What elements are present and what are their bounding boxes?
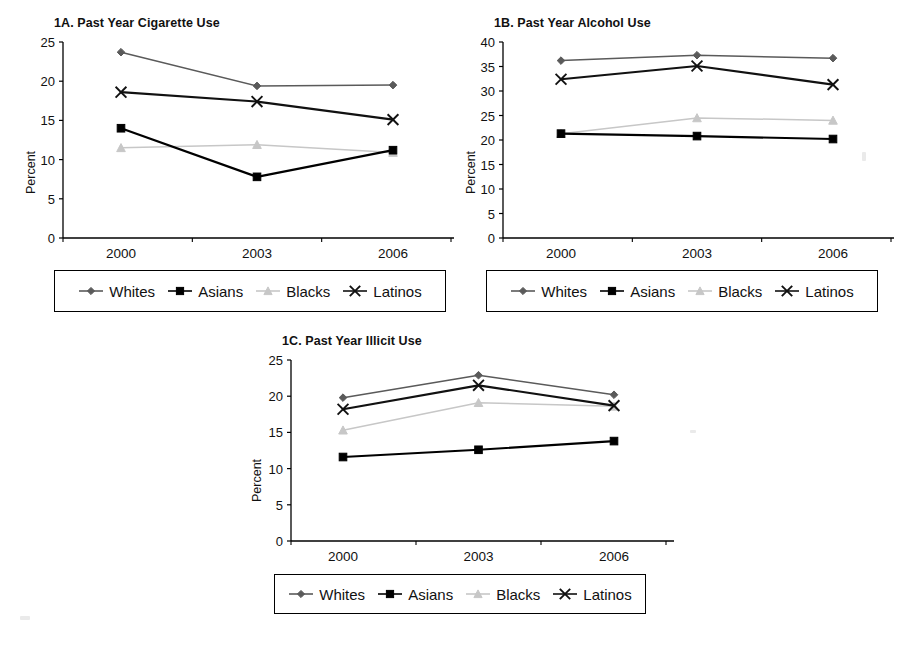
line-chart-1c: [236, 352, 676, 567]
scan-speck: [862, 152, 866, 161]
x-tick-label: 2003: [682, 246, 712, 261]
legend-item-whites[interactable]: Whites: [288, 586, 365, 603]
plot-area-1c: Percent 0510152025 200020032006: [236, 352, 676, 567]
legend-item-whites[interactable]: Whites: [510, 283, 587, 300]
x-tick-label: 2000: [106, 246, 136, 261]
y-tick-label: 20: [15, 74, 55, 89]
y-tick-label: 25: [455, 108, 495, 123]
legend-marker-diamond-icon: [510, 284, 536, 298]
line-chart-1b: [456, 34, 896, 264]
chart-panel-cigarette: 1A. Past Year Cigarette Use Percent 0510…: [16, 16, 456, 326]
y-tick-label: 15: [455, 157, 495, 172]
y-tick-label: 40: [455, 35, 495, 50]
y-tick-label: 30: [455, 84, 495, 99]
plot-area-1a: Percent 0510152025 200020032006: [16, 34, 456, 264]
legend-marker-square-icon: [377, 587, 403, 601]
chart-title-1c: 1C. Past Year Illicit Use: [282, 334, 676, 348]
legend-label: Asians: [408, 586, 453, 603]
chart-title-1a: 1A. Past Year Cigarette Use: [54, 16, 456, 30]
x-tick-label: 2006: [599, 549, 629, 564]
series-whites: [557, 51, 837, 64]
y-tick-label: 35: [455, 59, 495, 74]
series-blacks: [339, 398, 619, 434]
series-asians: [339, 437, 618, 461]
legend-marker-cross-icon: [774, 284, 800, 298]
legend-item-latinos[interactable]: Latinos: [552, 586, 631, 603]
y-tick-label: 10: [455, 182, 495, 197]
legend-marker-triangle-icon: [255, 284, 281, 298]
legend-marker-diamond-icon: [78, 284, 104, 298]
legend-item-asians[interactable]: Asians: [167, 283, 243, 300]
legend-label: Asians: [630, 283, 675, 300]
legend-label: Whites: [319, 586, 365, 603]
legend-label: Blacks: [718, 283, 762, 300]
series-asians: [117, 124, 397, 180]
legend-item-blacks[interactable]: Blacks: [465, 586, 540, 603]
y-tick-label: 5: [455, 206, 495, 221]
legend-marker-cross-icon: [552, 587, 578, 601]
legend-marker-triangle-icon: [465, 587, 491, 601]
series-latinos: [116, 87, 399, 125]
y-tick-label: 20: [243, 389, 283, 404]
y-tick-label: 15: [15, 113, 55, 128]
y-tick-label: 25: [15, 35, 55, 50]
line-chart-1a: [16, 34, 456, 264]
y-tick-label: 5: [243, 497, 283, 512]
legend-item-asians[interactable]: Asians: [377, 586, 453, 603]
series-asians: [557, 130, 837, 143]
legend-label: Latinos: [805, 283, 853, 300]
scan-speck: [20, 616, 30, 620]
legend-item-latinos[interactable]: Latinos: [342, 283, 421, 300]
y-tick-label: 20: [455, 133, 495, 148]
y-tick-label: 0: [243, 534, 283, 549]
chart-panel-alcohol: 1B. Past Year Alcohol Use Percent 051015…: [456, 16, 896, 326]
x-tick-label: 2006: [818, 246, 848, 261]
legend-marker-square-icon: [599, 284, 625, 298]
x-tick-label: 2006: [378, 246, 408, 261]
legend-marker-cross-icon: [342, 284, 368, 298]
legend-marker-triangle-icon: [687, 284, 713, 298]
y-tick-label: 10: [243, 461, 283, 476]
legend-label: Asians: [198, 283, 243, 300]
y-tick-label: 0: [15, 231, 55, 246]
series-whites: [117, 48, 397, 89]
y-tick-label: 10: [15, 152, 55, 167]
plot-area-1b: Percent 0510152025303540 200020032006: [456, 34, 896, 264]
y-tick-label: 25: [243, 353, 283, 368]
x-tick-label: 2003: [242, 246, 272, 261]
legend-1a: WhitesAsiansBlacksLatinos: [54, 270, 446, 312]
legend-label: Latinos: [583, 586, 631, 603]
chart-panel-illicit: 1C. Past Year Illicit Use Percent 051015…: [236, 334, 676, 634]
legend-item-blacks[interactable]: Blacks: [687, 283, 762, 300]
legend-1b: WhitesAsiansBlacksLatinos: [486, 270, 878, 312]
y-tick-label: 15: [243, 425, 283, 440]
legend-label: Whites: [541, 283, 587, 300]
legend-label: Whites: [109, 283, 155, 300]
legend-label: Latinos: [373, 283, 421, 300]
series-latinos: [338, 380, 620, 415]
legend-marker-square-icon: [167, 284, 193, 298]
x-tick-label: 2003: [463, 549, 493, 564]
y-tick-label: 0: [455, 231, 495, 246]
legend-item-latinos[interactable]: Latinos: [774, 283, 853, 300]
x-tick-label: 2000: [328, 549, 358, 564]
legend-item-whites[interactable]: Whites: [78, 283, 155, 300]
legend-item-blacks[interactable]: Blacks: [255, 283, 330, 300]
x-tick-label: 2000: [546, 246, 576, 261]
legend-label: Blacks: [496, 586, 540, 603]
chart-title-1b: 1B. Past Year Alcohol Use: [494, 16, 896, 30]
legend-item-asians[interactable]: Asians: [599, 283, 675, 300]
legend-marker-diamond-icon: [288, 587, 314, 601]
y-tick-label: 5: [15, 191, 55, 206]
series-latinos: [556, 61, 839, 90]
legend-1c: WhitesAsiansBlacksLatinos: [274, 574, 646, 614]
scan-speck: [690, 430, 696, 433]
legend-label: Blacks: [286, 283, 330, 300]
